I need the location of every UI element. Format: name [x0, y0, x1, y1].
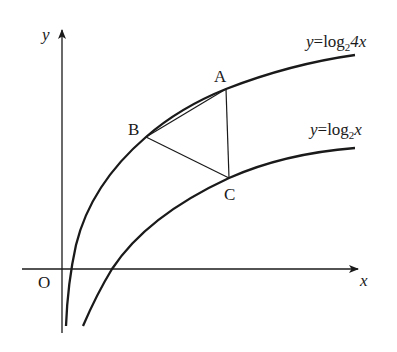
point-label-a: A [214, 67, 227, 86]
segment-ca [226, 89, 229, 178]
point-label-c: C [224, 185, 235, 204]
y-axis-label: y [40, 25, 50, 44]
curve-label-log2-4x: y=log24x [304, 32, 367, 53]
curve-label-upper-eq: =log [314, 32, 346, 51]
curve-label-log2-x: y=log2x [308, 120, 362, 141]
origin-label: O [38, 273, 50, 292]
curve-label-lower-eq: =log [318, 120, 350, 139]
curve-log2-4x [66, 55, 355, 326]
segment-ab [146, 89, 226, 137]
x-axis-label: x [359, 271, 368, 290]
point-label-b: B [128, 120, 139, 139]
diagram-canvas: y x O A B C y=log24x y=log2x [0, 0, 397, 352]
segment-bc [146, 137, 229, 178]
curve-log2-x [83, 148, 355, 326]
